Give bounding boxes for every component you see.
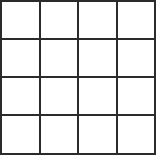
grid-cell-r1-c0 <box>1 39 40 77</box>
grid-cell-r3-c2 <box>78 115 117 154</box>
grid-4x4 <box>0 0 162 161</box>
grid-cell-r3-c0 <box>1 115 40 154</box>
grid-cell-r1-c2 <box>78 39 117 77</box>
grid-cell-r1-c1 <box>40 39 78 77</box>
grid-cell-r0-c2 <box>78 1 117 39</box>
grid-cell-r1-c3 <box>117 39 155 77</box>
grid-cell-r2-c0 <box>1 77 40 115</box>
grid-cell-r0-c0 <box>1 1 40 39</box>
grid-cell-r3-c3 <box>117 115 155 154</box>
grid-canvas <box>0 0 162 161</box>
grid-cell-r2-c2 <box>78 77 117 115</box>
grid-cell-r3-c1 <box>40 115 78 154</box>
grid-cell-r2-c3 <box>117 77 155 115</box>
grid-cell-r0-c1 <box>40 1 78 39</box>
grid-cell-r2-c1 <box>40 77 78 115</box>
grid-cell-r0-c3 <box>117 1 155 39</box>
